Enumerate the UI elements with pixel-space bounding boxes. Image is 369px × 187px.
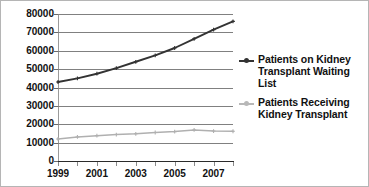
x-tick-mark [175, 162, 176, 166]
legend-line-marker-icon [239, 55, 254, 66]
y-tick-mark [54, 106, 58, 107]
x-axis-line [58, 161, 234, 162]
chart-container: 8000070000600005000040000300002000010000… [0, 0, 369, 187]
x-tick-mark [233, 162, 234, 166]
grid-line [58, 106, 233, 107]
y-tick-mark [54, 124, 58, 125]
legend-marker-1 [244, 101, 249, 106]
y-tick-label: 60000 [26, 46, 54, 56]
legend-entry-waiting-list: Patients on Kidney Transplant Waiting Li… [239, 53, 367, 89]
y-tick-mark [54, 14, 58, 15]
y-axis-tick-labels: 8000070000600005000040000300002000010000… [1, 1, 54, 187]
legend-label-waiting-list: Patients on Kidney Transplant Waiting Li… [258, 53, 367, 89]
grid-line [58, 69, 233, 70]
grid-line [58, 51, 233, 52]
y-tick-mark [54, 143, 58, 144]
x-tick-mark [97, 162, 98, 166]
y-tick-label: 40000 [26, 83, 54, 93]
x-tick-label: 2005 [164, 168, 186, 179]
y-tick-label: 80000 [26, 9, 54, 19]
x-tick-mark [58, 162, 59, 166]
x-tick-mark [155, 162, 156, 166]
y-tick-mark [54, 32, 58, 33]
y-tick-label: 10000 [26, 138, 54, 148]
legend-marker-0 [244, 58, 249, 63]
x-tick-label: 2003 [125, 168, 147, 179]
x-tick-label: 1999 [47, 168, 69, 179]
y-tick-label: 70000 [26, 27, 54, 37]
y-tick-mark [54, 69, 58, 70]
grid-line [58, 14, 233, 15]
legend-entry-receiving: Patients Receiving Kidney Transplant [239, 96, 367, 120]
y-tick-mark [54, 161, 58, 162]
x-tick-label: 2007 [202, 168, 224, 179]
x-tick-mark [136, 162, 137, 166]
x-tick-mark [194, 162, 195, 166]
legend-label-receiving: Patients Receiving Kidney Transplant [258, 96, 367, 120]
chart-legend: Patients on Kidney Transplant Waiting Li… [239, 53, 367, 127]
y-tick-label: 20000 [26, 119, 54, 129]
grid-line [58, 32, 233, 33]
x-tick-mark [214, 162, 215, 166]
grid-line [58, 88, 233, 89]
grid-line [58, 124, 233, 125]
y-tick-mark [54, 88, 58, 89]
x-tick-mark [116, 162, 117, 166]
x-tick-label: 2001 [86, 168, 108, 179]
grid-line [58, 143, 233, 144]
legend-line-marker-icon [239, 98, 254, 109]
plot-area [58, 14, 233, 161]
y-tick-label: 30000 [26, 101, 54, 111]
y-tick-label: 50000 [26, 64, 54, 74]
x-tick-mark [77, 162, 78, 166]
y-tick-mark [54, 51, 58, 52]
